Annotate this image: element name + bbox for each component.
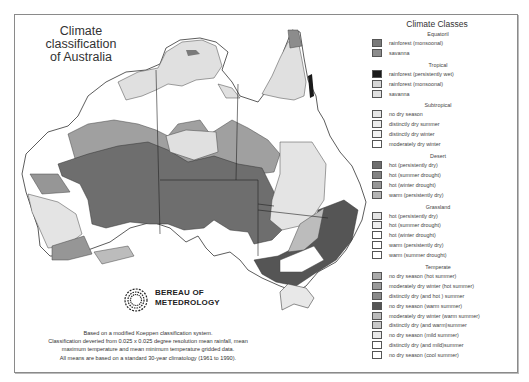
legend-swatch [372,90,382,98]
bureau-name: BEREAU OF METEDROLOGY [155,288,220,308]
legend-item: warm (persistently dry) [372,190,514,200]
caption-line: All means are based on a standard 30-yea… [28,354,268,362]
caption-line: Classification deveried from 0.025 x 0.0… [28,337,268,345]
legend-swatch [372,321,382,329]
legend-group-grassland: Grassland [368,204,508,211]
legend-item: hot (winter drought) [372,180,514,190]
australia-climate-map [18,24,370,324]
legend-swatch [372,292,382,300]
bureau-logo-icon [123,287,149,313]
legend-item: moderately dry winter (hot summer) [372,281,514,291]
legend-item: no dry season (hot summer) [372,271,514,281]
legend-item: rainforest (monsoonal) [372,79,514,89]
legend-swatch [372,282,382,290]
legend-group-temperate: Temperate [368,264,508,271]
legend-swatch [372,302,382,310]
legend-swatch [372,241,382,249]
legend-swatch [372,331,382,339]
legend-item: warm (summer drought) [372,250,514,260]
legend-swatch [372,251,382,259]
legend-swatch [372,80,382,88]
legend-item: savanna [372,48,514,58]
legend-item: distinctly dry winter [372,129,514,139]
legend-item: no dry season [372,109,514,119]
legend-item: hot (persistently dry) [372,211,514,221]
legend-swatch [372,140,382,148]
legend-swatch [372,221,382,229]
legend-group-equatorial: Equatoril [368,31,508,38]
legend-item: no dry season (cool summer) [372,350,514,360]
legend-item: rainforest (monsoonal) [372,38,514,48]
legend-item: moderately dry winter [372,139,514,149]
legend-group-subtropical: Subtropical [368,102,508,109]
legend-item: hot (summer drought) [372,170,514,180]
caption-line: Based on a modified Koeppen classificati… [28,329,268,337]
legend-swatch [372,181,382,189]
climate-legend: Climate Classes Equatoril rainforest (mo… [372,19,514,360]
legend-item: distinctly dry (and mild)summer [372,340,514,350]
bureau-name-line-1: BEREAU OF [155,288,220,298]
legend-group-tropical: Tropical [368,62,508,69]
map-caption: Based on a modified Koeppen classificati… [28,329,268,362]
legend-item: savanna [372,89,514,99]
legend-swatch [372,312,382,320]
legend-item: warm (persistently dry) [372,240,514,250]
legend-group-desert: Desert [368,153,508,160]
legend-swatch [372,341,382,349]
legend-item: rainforest (persistently wet) [372,69,514,79]
legend-swatch [372,39,382,47]
legend-swatch [372,110,382,118]
legend-item: distinctly dry (and hot ) summer [372,291,514,301]
legend-swatch [372,171,382,179]
legend-swatch [372,120,382,128]
legend-item: moderately dry winter (warm summer) [372,311,514,321]
legend-item: no dry season (mild summer) [372,330,514,340]
legend-swatch [372,351,382,359]
bureau-name-line-2: METEDROLOGY [155,298,220,308]
legend-swatch [372,49,382,57]
caption-line: maximum temperature and mean minimum tem… [28,345,268,353]
legend-swatch [372,161,382,169]
legend-item: hot (winter drought) [372,230,514,240]
legend-item: no dry season (warm summer) [372,301,514,311]
legend-swatch [372,231,382,239]
legend-item: hot (summer drought) [372,220,514,230]
legend-swatch [372,272,382,280]
legend-swatch [372,70,382,78]
legend-swatch [372,130,382,138]
legend-item: distinctly dry (and warm)summer [372,320,514,330]
legend-item: distinctly dry summer [372,119,514,129]
legend-item: hot (persistently dry) [372,160,514,170]
legend-title: Climate Classes [367,19,507,29]
legend-swatch [372,212,382,220]
legend-swatch [372,191,382,199]
